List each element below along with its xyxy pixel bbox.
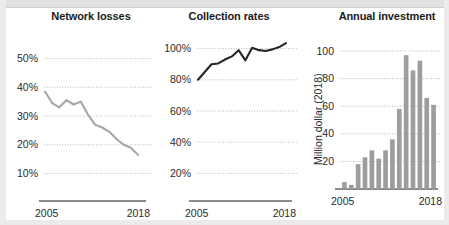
bar: [411, 70, 416, 189]
line-series: [45, 92, 138, 155]
bar: [349, 185, 354, 189]
x-axis-tick-label-start: 2005: [185, 207, 209, 219]
y-axis-tick-label: 40%: [17, 81, 38, 93]
y-axis-tick-label: 60%: [170, 105, 191, 117]
bar: [424, 98, 429, 189]
chart-title-collection-rates: Collection rates: [156, 10, 302, 22]
bar: [431, 105, 436, 189]
figure-right-border: [444, 0, 449, 225]
x-axis-tick-label-end: 2018: [273, 207, 297, 219]
chart-plot-collection-rates: 100%80%60%40%20%20052018: [156, 0, 302, 225]
bar: [390, 139, 395, 189]
y-axis-tick-label: 80%: [170, 73, 191, 85]
chart-plot-network-losses: 50%40%30%20%10%20052018: [6, 0, 156, 225]
bar: [383, 150, 388, 189]
y-axis-tick-label: 40: [322, 127, 334, 139]
y-axis-tick-label: 100%: [164, 42, 191, 54]
y-axis-tick-label: 10%: [17, 167, 38, 179]
bar: [370, 150, 375, 189]
bar: [404, 55, 409, 189]
x-axis-tick-label-start: 2005: [331, 195, 355, 207]
y-axis-tick-label: 60: [322, 100, 334, 112]
chart-panel-network-losses: Network losses 50%40%30%20%10%20052018: [6, 0, 156, 225]
y-axis-tick-label: 20%: [170, 167, 191, 179]
bar: [376, 159, 381, 189]
bar: [418, 61, 423, 189]
bar: [397, 109, 402, 189]
bar: [342, 182, 347, 189]
chart-panel-collection-rates: Collection rates 100%80%60%40%20%2005201…: [156, 0, 302, 225]
axis-label-million-dollar: Million dollar (2018): [312, 73, 324, 165]
y-axis-tick-label: 50%: [17, 52, 38, 64]
y-axis-tick-label: 20%: [17, 138, 38, 150]
x-axis-tick-label-start: 2005: [35, 207, 59, 219]
y-axis-tick-label: 80: [322, 72, 334, 84]
y-axis-tick-label: 30%: [17, 110, 38, 122]
y-axis-tick-label: 100: [316, 45, 334, 57]
bar: [356, 164, 361, 189]
chart-panel-annual-investment: Annual investment Million dollar (2018) …: [302, 0, 444, 225]
x-axis-tick-label-end: 2018: [419, 195, 443, 207]
y-axis-tick-label: 40%: [170, 136, 191, 148]
chart-title-annual-investment: Annual investment: [302, 10, 449, 22]
y-axis-tick-label: 20: [322, 155, 334, 167]
bar: [363, 157, 368, 189]
x-axis-tick-label-end: 2018: [127, 207, 151, 219]
chart-title-network-losses: Network losses: [6, 10, 166, 22]
figure-canvas: Network losses 50%40%30%20%10%20052018 C…: [0, 0, 449, 225]
